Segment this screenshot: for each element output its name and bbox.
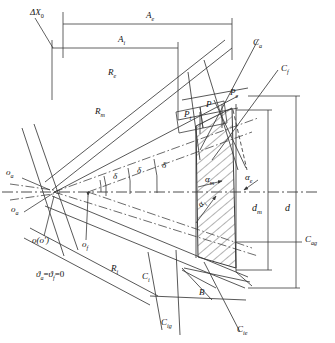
label-A-e: Ae [146, 11, 154, 22]
label-B: B [199, 288, 205, 297]
oa-low-leader [24, 194, 52, 212]
label-P-i: Pi [184, 110, 191, 121]
label-R-i: Ri [111, 264, 118, 275]
label-P: P [206, 100, 212, 109]
Cig-line [176, 250, 180, 335]
label-C-ig: Cig [161, 318, 172, 329]
label-alpha-e: αe [245, 173, 252, 184]
o-prime-leader [44, 196, 54, 236]
label-C-ie: Cie [237, 325, 247, 336]
dx-leader [35, 18, 53, 48]
label-delta-2: δ [137, 166, 141, 175]
bevel-gear-diagram: ΔX0 Ae Ai Re Rm Ri Ca Cf Ci Cig Cie Cag … [0, 0, 335, 343]
label-o-a-low: oa [11, 205, 19, 216]
label-o-f: of [82, 240, 88, 251]
oa-ray-upper [10, 184, 60, 191]
tooth-section [196, 108, 236, 268]
label-condition: ϑa=ϑf=0 [36, 270, 64, 281]
label-C-ag: Cag [305, 235, 317, 246]
label-C-f: Cf [281, 64, 289, 75]
B-leader-2 [182, 270, 216, 288]
label-d-m: dm [252, 203, 262, 216]
Ci-curve [148, 252, 162, 330]
label-d: d [285, 203, 290, 213]
label-delta-1: δ [113, 172, 117, 181]
delta-arc-2 [128, 168, 130, 194]
label-alpha-m: αm [205, 175, 214, 186]
oa-top-leader [22, 178, 50, 190]
left-construction [35, 12, 232, 120]
label-R-e: Re [108, 68, 116, 79]
label-C-i: Ci [142, 272, 150, 283]
diagram-canvas [0, 0, 335, 343]
label-R-m: Rm [95, 107, 105, 118]
label-P-e: Pe [230, 88, 238, 99]
label-o-prime: o(o′) [32, 236, 49, 245]
label-delta-3: δ [162, 161, 166, 170]
bottom-band [150, 296, 246, 300]
Ri-upper-line [30, 228, 158, 296]
label-C-a: Ca [253, 38, 262, 49]
delta-arc-0 [100, 180, 101, 192]
tooth-hatched-area [196, 108, 236, 268]
label-delta-x0: ΔX0 [30, 8, 44, 19]
label-o-a-top: oa [6, 168, 14, 179]
delta-arc-3 [154, 159, 157, 193]
label-A-i: Ai [118, 35, 125, 46]
bottom-right-edge [236, 272, 252, 286]
